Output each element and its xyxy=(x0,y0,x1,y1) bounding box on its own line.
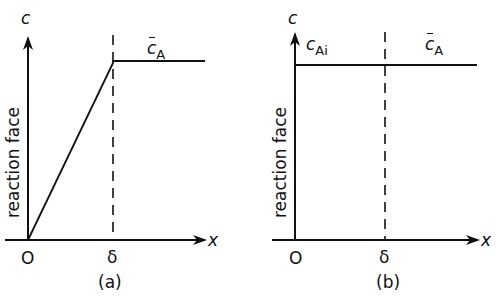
panel-a-origin-label: O xyxy=(21,250,34,267)
panel-b-cAi-main: c xyxy=(306,34,315,54)
panel-b-cA-sub: A xyxy=(434,43,443,58)
panel-a-delta-label: δ xyxy=(107,249,117,266)
panel-b xyxy=(272,32,478,240)
panel-a-reaction-face-label: reaction face xyxy=(5,107,22,218)
panel-b-origin-label: O xyxy=(289,250,302,267)
panel-a-y-axis-label: c xyxy=(21,10,30,27)
panel-a-cA-sub: A xyxy=(156,47,165,62)
panel-b-cA-main: c xyxy=(425,36,434,53)
panel-b-cA-bar-label: cA xyxy=(425,36,443,57)
panel-b-cAi-sub: Ai xyxy=(315,43,328,58)
panel-b-caption: (b) xyxy=(376,274,400,291)
panel-b-reaction-face-label: reaction face xyxy=(272,107,289,218)
diagram-canvas xyxy=(0,0,496,297)
panel-b-y-axis-label: c xyxy=(288,10,297,27)
panel-a-concentration-profile xyxy=(28,61,205,240)
panel-b-x-axis-label: x xyxy=(481,232,491,249)
panel-a-cA-main: c xyxy=(147,40,156,57)
panel-b-cAi-label: cAi xyxy=(306,36,328,57)
panel-a-x-axis-label: x xyxy=(208,232,218,249)
panel-b-delta-label: δ xyxy=(379,249,389,266)
panel-a-caption: (a) xyxy=(98,274,122,291)
panel-a-cA-bar-label: cA xyxy=(147,40,165,61)
panel-a xyxy=(5,35,205,240)
